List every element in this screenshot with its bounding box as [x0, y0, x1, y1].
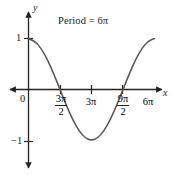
fraction-3pi-over-2: 3π 2 — [55, 94, 68, 118]
x-axis-label: x — [163, 88, 167, 98]
y-tick-label-negative-1: −1 — [11, 136, 22, 147]
fraction-numerator: 3π — [55, 94, 68, 105]
fraction-numerator: 9π — [117, 94, 130, 105]
fraction-9pi-over-2: 9π 2 — [117, 94, 130, 118]
fraction-denominator: 2 — [55, 107, 68, 118]
fraction-denominator: 2 — [117, 107, 130, 118]
origin-label: 0 — [20, 94, 25, 105]
chart-title: Period = 6π — [58, 16, 108, 27]
x-tick-label-9pi-over-2: 9π 2 — [110, 94, 136, 118]
cosine-graph-figure: Period = 6π y x 1 −1 0 3π 2 3π 9π 2 6π — [0, 0, 173, 175]
x-tick-label-6pi: 6π — [136, 96, 160, 107]
y-axis-label: y — [33, 3, 37, 13]
x-tick-label-3pi: 3π — [80, 96, 102, 107]
x-tick-label-3pi-over-2: 3π 2 — [48, 94, 74, 118]
y-tick-label-1: 1 — [16, 33, 21, 44]
